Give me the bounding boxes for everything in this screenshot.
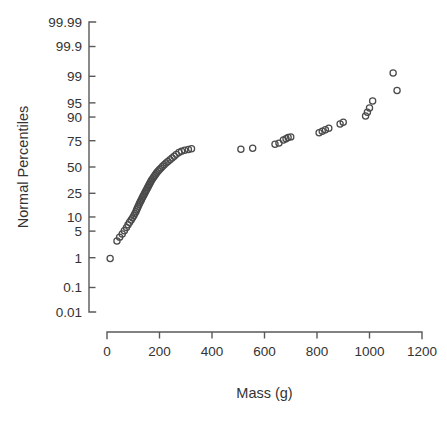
chart-canvas: 0.010.1151025507590959999.999.99 0200400…	[0, 0, 447, 424]
x-axis-tick-label: 600	[253, 344, 276, 359]
y-axis-tick-label: 25	[67, 186, 82, 201]
data-point	[107, 255, 113, 261]
y-axis-tick-label: 75	[67, 134, 82, 149]
data-point	[394, 87, 400, 93]
data-point	[272, 141, 278, 147]
x-axis-tick-label: 1200	[407, 344, 437, 359]
x-axis-tick-label: 1000	[354, 344, 384, 359]
y-axis-tick-label: 10	[67, 210, 82, 225]
y-axis-tick-label: 5	[74, 224, 82, 239]
x-axis-title: Mass (g)	[236, 385, 292, 401]
y-axis-tick-label: 99.99	[48, 15, 82, 30]
x-axis-tick-label: 400	[201, 344, 224, 359]
y-axis-tick-label: 99.9	[56, 39, 82, 54]
data-point	[370, 98, 376, 104]
data-point-series	[107, 70, 400, 262]
y-axis-tick-label: 50	[67, 160, 82, 175]
data-point	[250, 145, 256, 151]
x-axis-tick-label: 0	[103, 344, 111, 359]
y-axis-tick-label: 99	[67, 69, 82, 84]
y-axis-title: Normal Percentiles	[15, 106, 31, 229]
x-axis-tick-label: 800	[306, 344, 329, 359]
y-axis: 0.010.1151025507590959999.999.99	[48, 15, 95, 320]
x-axis-tick-label: 200	[148, 344, 171, 359]
y-axis-tick-label: 0.01	[56, 305, 82, 320]
data-point	[390, 70, 396, 76]
data-point	[238, 146, 244, 152]
normal-probability-plot: 0.010.1151025507590959999.999.99 0200400…	[0, 0, 447, 424]
y-axis-tick-label: 0.1	[63, 280, 82, 295]
y-axis-tick-label: 95	[67, 96, 82, 111]
data-point	[276, 140, 282, 146]
x-axis: 020040060080010001200	[103, 332, 437, 359]
y-axis-tick-label: 1	[74, 251, 82, 266]
y-axis-tick-label: 90	[67, 110, 82, 125]
